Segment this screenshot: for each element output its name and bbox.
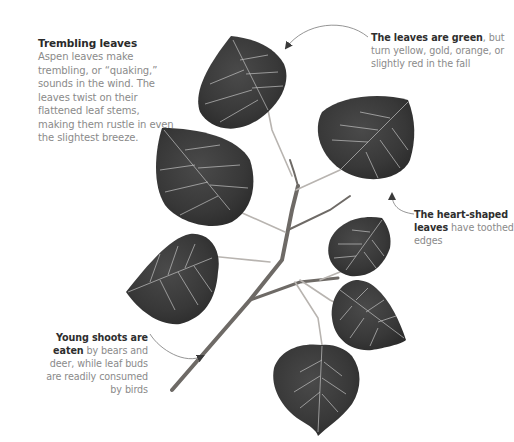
leaf-left-lower <box>126 234 219 324</box>
leaf-right-lower <box>332 280 406 350</box>
intro-title: Trembling leaves <box>38 36 178 50</box>
leaf-right-upper <box>318 96 414 179</box>
leaf-top <box>198 36 286 129</box>
intro-body: Aspen leaves make trembling, or “quaking… <box>38 50 178 145</box>
annotation-young-shoots: Young shoots are eaten by bears and deer… <box>44 331 148 396</box>
leader-arrow-color <box>286 25 368 48</box>
leader-arrow-shoots <box>150 334 203 359</box>
intro-text-block: Trembling leaves Aspen leaves make tremb… <box>38 36 178 145</box>
leaf-right-small <box>328 217 390 276</box>
leaf-bottom <box>273 344 359 436</box>
annotation-leaf-color: The leaves are green, but turn yellow, g… <box>371 31 506 70</box>
leader-arrow-shape <box>392 194 414 214</box>
annotation-leaf-shape: The heart-shaped leaves have toothed edg… <box>414 208 514 247</box>
annotation-leaf-color-bold: The leaves are green <box>371 32 483 43</box>
